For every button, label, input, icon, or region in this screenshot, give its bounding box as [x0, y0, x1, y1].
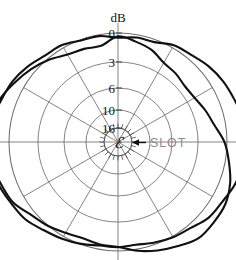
hub-tick: [130, 133, 134, 135]
hub-tick: [128, 129, 131, 132]
ring-label-0: 0: [109, 26, 116, 41]
left-arrow-icon: [132, 139, 139, 145]
slot-pointer-arrow: [132, 139, 146, 145]
polar-plot-figure: dB 0361016 ℰ SLOT: [0, 0, 236, 260]
polar-chart-canvas: dB 0361016 ℰ SLOT: [0, 0, 236, 260]
chart-labels: dB 0361016 ℰ SLOT: [102, 10, 186, 151]
ring-label-3: 3: [109, 55, 116, 70]
hub-tick: [100, 137, 104, 138]
radial-axis-title: dB: [110, 10, 126, 25]
hub-tick: [128, 152, 131, 155]
ring-label-10: 10: [102, 103, 115, 118]
hub-tick: [113, 156, 114, 160]
hub-tick: [102, 149, 106, 151]
hub-tick: [132, 146, 136, 147]
hub-tick: [130, 149, 134, 151]
ring-label-16: 16: [102, 121, 116, 136]
hub-tick: [105, 152, 108, 155]
center-field-symbol: ℰ: [114, 135, 125, 151]
hub-tick: [122, 156, 123, 160]
hub-tick: [125, 126, 127, 130]
ring-label-6: 6: [109, 81, 116, 96]
hub-tick: [125, 154, 127, 158]
hub-tick: [109, 154, 111, 158]
slot-annotation-label: SLOT: [150, 136, 186, 150]
hub-tick: [100, 146, 104, 147]
hub-tick: [132, 137, 136, 138]
